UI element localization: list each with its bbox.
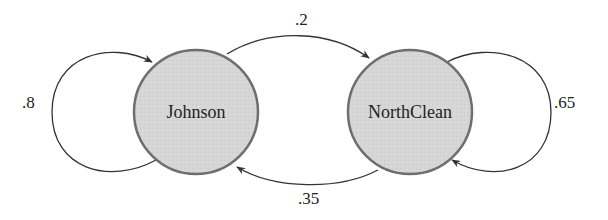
transition-diagram — [0, 0, 608, 220]
edge-johnson-to-northclean — [227, 36, 369, 58]
edge-northclean-to-johnson — [237, 167, 378, 185]
node-label-northclean: NorthClean — [368, 102, 452, 123]
edge-label-northclean-self: .65 — [554, 93, 575, 113]
edge-label-johnson-self: .8 — [22, 93, 35, 113]
edge-label-northclean-johnson: .35 — [298, 189, 319, 209]
edge-label-johnson-northclean: .2 — [295, 10, 308, 30]
node-label-johnson: Johnson — [166, 102, 225, 123]
